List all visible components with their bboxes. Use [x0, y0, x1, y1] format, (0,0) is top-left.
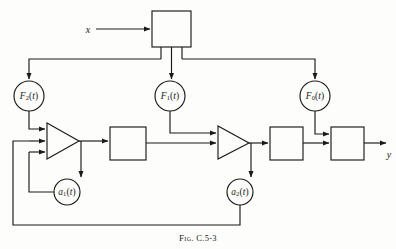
label-F2: F2(t) [20, 91, 39, 102]
label-a2-closeparen: ) [245, 187, 248, 197]
block-diagram [0, 0, 396, 249]
label-F2-closeparen: ) [35, 91, 38, 101]
label-F0: F0(t) [306, 91, 325, 102]
wire-to-F2 [29, 59, 161, 79]
wire-F1-to-amp2 [170, 111, 216, 133]
caption-number: C.5-3 [196, 233, 217, 243]
label-F0-closeparen: ) [321, 91, 324, 101]
figure-caption: Fig. C.5-3 [0, 233, 396, 243]
label-F1: F1(t) [161, 91, 180, 102]
block-3 [331, 127, 364, 160]
wire-F2-to-amp1 [29, 111, 45, 129]
wire-F0-to-block3 [315, 111, 329, 134]
top-block [152, 11, 191, 47]
caption-prefix: Fig. [179, 233, 194, 243]
figure-page: x y F2(t) F1(t) F0(t) a1(t) a2(t) Fig. C… [0, 0, 396, 249]
wire-a1-feedback [29, 152, 54, 192]
label-a1-closeparen: ) [72, 187, 75, 197]
label-a1: a1(t) [58, 187, 76, 198]
label-a2: a2(t) [231, 187, 249, 198]
input-label-x: x [86, 24, 90, 35]
amplifier-2 [218, 126, 249, 159]
amplifier-1 [47, 123, 79, 159]
block-2 [270, 127, 303, 160]
wire-to-F0 [182, 59, 315, 79]
output-label-y: y [387, 149, 391, 160]
label-F1-closeparen: ) [176, 91, 179, 101]
block-1 [110, 127, 146, 160]
